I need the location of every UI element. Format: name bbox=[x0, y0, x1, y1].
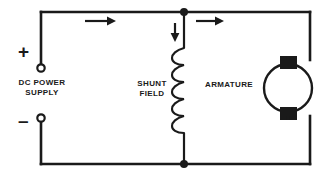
positive-terminal-icon bbox=[37, 64, 44, 71]
shunt-field-label: SHUNT FIELD bbox=[128, 79, 176, 99]
field-current-arrow-icon bbox=[171, 23, 180, 42]
negative-sign-label: – bbox=[18, 111, 29, 130]
negative-terminal-icon bbox=[37, 114, 44, 121]
supply-current-arrow-icon bbox=[85, 17, 116, 26]
dc-power-supply-label: DC POWER SUPPLY bbox=[6, 78, 78, 98]
armature-label: ARMATURE bbox=[205, 80, 267, 90]
armature-circle bbox=[264, 64, 312, 112]
circuit-diagram-canvas: DC POWER SUPPLY SHUNT FIELD ARMATURE + – bbox=[0, 0, 334, 186]
positive-sign-label: + bbox=[18, 42, 29, 61]
top-junction-node bbox=[180, 8, 188, 16]
bottom-junction-node bbox=[180, 160, 188, 168]
armature-current-arrow-icon bbox=[196, 17, 224, 26]
